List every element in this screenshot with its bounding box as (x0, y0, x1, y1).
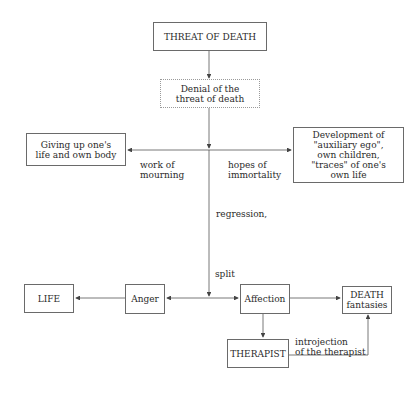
diagram-connectors (0, 0, 416, 394)
node-development-auxiliary-ego: Development of "auxiliary ego", own chil… (293, 127, 404, 183)
node-life: LIFE (24, 284, 74, 313)
label-split: split (215, 269, 235, 279)
node-denial: Denial of the threat of death (160, 79, 260, 108)
label-work-of-mourning: work of mourning (140, 160, 184, 180)
label-regression: regression, (216, 209, 267, 219)
node-affection: Affection (240, 284, 290, 314)
node-threat-of-death: THREAT OF DEATH (153, 22, 267, 51)
label-introjection: introjection of the therapist (295, 337, 366, 357)
node-therapist: THERAPIST (227, 339, 289, 368)
node-giving-up-life: Giving up one's life and own body (26, 133, 126, 166)
node-death-fantasies: DEATH fantasies (342, 286, 392, 314)
node-anger: Anger (125, 284, 165, 314)
label-hopes-of-immortality: hopes of immortality (228, 160, 281, 180)
